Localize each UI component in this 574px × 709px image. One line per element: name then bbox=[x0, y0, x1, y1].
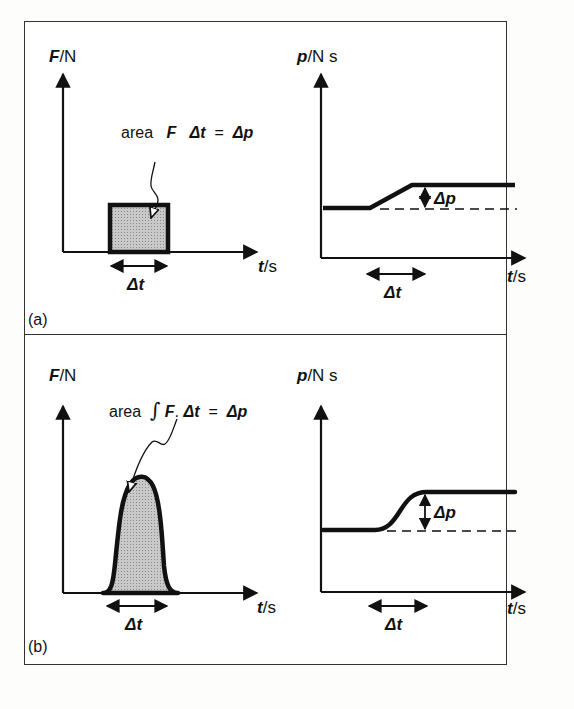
b-right-y-symbol: p bbox=[297, 366, 307, 385]
a-left-y-symbol: F bbox=[49, 47, 59, 66]
b-annot-dp: Δp bbox=[227, 403, 248, 420]
b-area-annotation: area ∫ F. Δt = Δp bbox=[109, 400, 247, 420]
a-right-y-symbol: p bbox=[297, 47, 307, 66]
b-annot-eq: = bbox=[208, 403, 217, 420]
impulse-figure: F/N area F Δt = Δp Δt t/s p/N s Δp Δt t/… bbox=[24, 21, 507, 665]
a-right-dt: Δt bbox=[384, 283, 401, 302]
a-annot-dp: Δp bbox=[233, 124, 254, 141]
b-left-x-unit: /s bbox=[263, 598, 276, 617]
a-left-dt: Δt bbox=[127, 275, 144, 294]
b-left-x-label: t/s bbox=[257, 599, 276, 616]
a-annot-F: F bbox=[166, 124, 176, 141]
a-right-interval-label: Δt bbox=[384, 284, 401, 301]
b-right-dt: Δt bbox=[385, 615, 402, 634]
b-right-y-label: p/N s bbox=[297, 367, 338, 384]
b-annot-F: F bbox=[165, 403, 175, 420]
panel-a-tag: (a) bbox=[28, 312, 48, 328]
a-annot-dt: Δt bbox=[190, 124, 206, 141]
b-right-axes bbox=[321, 406, 525, 592]
a-momentum-curve bbox=[323, 185, 515, 208]
a-left-interval-label: Δt bbox=[127, 276, 144, 293]
b-left-interval-label: Δt bbox=[125, 616, 142, 633]
a-annot-prefix: area bbox=[121, 124, 153, 141]
a-rect-pulse bbox=[110, 205, 168, 252]
b-right-y-unit: /N s bbox=[307, 366, 337, 385]
a-right-x-label: t/s bbox=[507, 268, 526, 285]
b-annot-prefix: area bbox=[109, 403, 141, 420]
panel-a: F/N area F Δt = Δp Δt t/s p/N s Δp Δt t/… bbox=[25, 22, 506, 335]
b-left-y-label: F/N bbox=[49, 367, 76, 384]
a-left-y-label: F/N bbox=[49, 48, 76, 65]
a-area-annotation: area F Δt = Δp bbox=[121, 125, 253, 141]
b-dp-label: Δp bbox=[434, 504, 456, 521]
a-right-y-label: p/N s bbox=[297, 48, 338, 65]
b-left-y-unit: /N bbox=[59, 366, 76, 385]
b-annot-dot: . bbox=[175, 403, 179, 420]
b-bell-pulse bbox=[103, 477, 178, 593]
b-left-dt: Δt bbox=[125, 615, 142, 634]
b-dp-text: Δp bbox=[434, 503, 456, 522]
b-right-x-unit: /s bbox=[513, 599, 526, 618]
a-dp-label: Δp bbox=[434, 190, 456, 207]
a-annot-eq: = bbox=[214, 124, 223, 141]
a-dp-text: Δp bbox=[434, 189, 456, 208]
integral-icon: ∫ bbox=[150, 398, 160, 422]
b-right-x-label: t/s bbox=[507, 600, 526, 617]
a-right-x-unit: /s bbox=[513, 267, 526, 286]
panel-a-graphics bbox=[25, 22, 508, 334]
a-left-y-unit: /N bbox=[59, 47, 76, 66]
a-right-axes bbox=[321, 74, 525, 258]
b-left-y-symbol: F bbox=[49, 366, 59, 385]
b-annot-dt: Δt bbox=[183, 403, 199, 420]
panel-b: F/N area ∫ F. Δt = Δp Δt t/s p/N s Δp Δt… bbox=[25, 334, 506, 664]
a-left-x-label: t/s bbox=[258, 258, 277, 275]
a-left-x-unit: /s bbox=[264, 257, 277, 276]
a-right-y-unit: /N s bbox=[307, 47, 337, 66]
b-right-interval-label: Δt bbox=[385, 616, 402, 633]
b-momentum-curve bbox=[323, 492, 515, 530]
panel-b-tag: (b) bbox=[28, 639, 48, 655]
